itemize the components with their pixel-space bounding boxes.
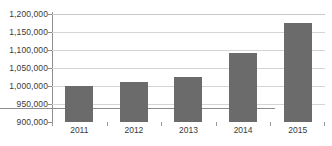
y-axis-tick-label: 1,050,000	[0, 64, 48, 73]
bar-slot	[216, 14, 271, 122]
bar-2011	[65, 86, 93, 122]
bar-2014	[229, 53, 257, 122]
bar-2012	[120, 82, 148, 122]
bar-slot	[270, 14, 325, 122]
x-axis-category-label: 2013	[161, 125, 216, 136]
y-axis-tick-label: 900,000	[0, 118, 48, 127]
bar-slot	[161, 14, 216, 122]
y-axis-tick-label: 1,000,000	[0, 82, 48, 91]
y-axis-tick-label: 1,150,000	[0, 28, 48, 37]
bar-chart: 1,200,000 1,150,000 1,100,000 1,050,000 …	[0, 0, 332, 146]
bar-2015	[284, 23, 312, 122]
x-axis-category-label: 2014	[216, 125, 271, 136]
bar-slot	[52, 14, 107, 122]
x-axis-category-label: 2011	[52, 125, 107, 136]
y-axis-labels: 1,200,000 1,150,000 1,100,000 1,050,000 …	[0, 0, 48, 146]
x-axis-category-label: 2015	[270, 125, 325, 136]
bar-series	[52, 14, 325, 122]
y-axis-tick-label: 1,100,000	[0, 46, 48, 55]
x-axis-labels: 2011 2012 2013 2014 2015	[52, 125, 325, 139]
y-axis-tick-label: 1,200,000	[0, 10, 48, 19]
bar-slot	[107, 14, 162, 122]
bar-2013	[174, 77, 202, 122]
x-axis-category-label: 2012	[107, 125, 162, 136]
